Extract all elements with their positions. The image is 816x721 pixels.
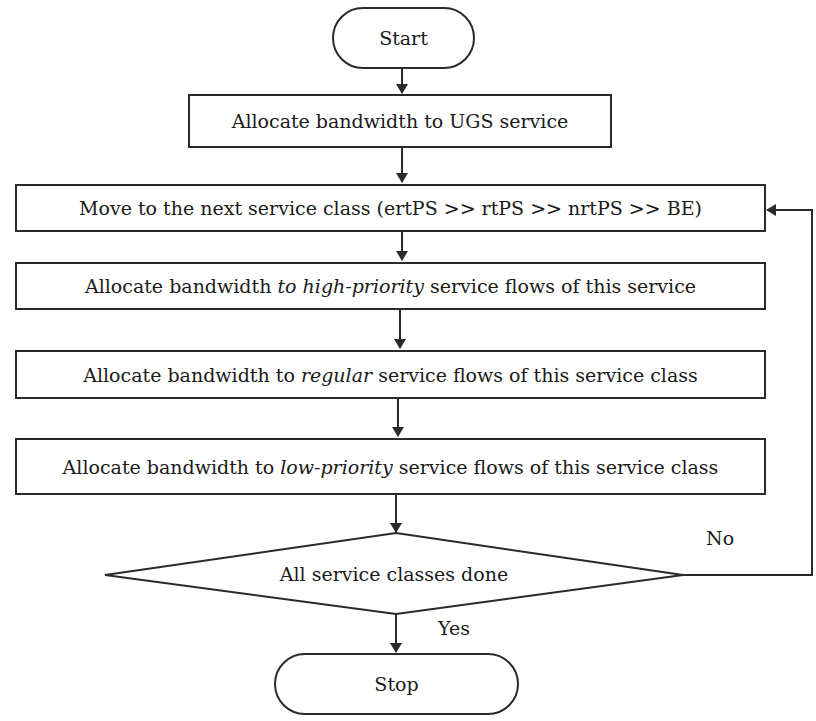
stop-label: Stop: [374, 673, 418, 695]
ugs-label: Allocate bandwidth to UGS service: [232, 110, 569, 132]
decision-label: All service classes done: [280, 563, 508, 585]
start-label: Start: [379, 27, 428, 49]
yes-label: Yes: [438, 617, 470, 639]
high-priority-label: Allocate bandwidth to high-priority serv…: [85, 275, 696, 297]
decision-all-classes-done: All service classes done: [105, 533, 683, 614]
low-priority-label: Allocate bandwidth to low-priority servi…: [63, 456, 719, 478]
stop-terminal: Stop: [274, 653, 519, 715]
no-label: No: [706, 527, 734, 549]
process-allocate-ugs: Allocate bandwidth to UGS service: [188, 94, 612, 148]
process-low-priority: Allocate bandwidth to low-priority servi…: [15, 438, 766, 495]
process-regular: Allocate bandwidth to regular service fl…: [15, 350, 766, 399]
regular-label: Allocate bandwidth to regular service fl…: [83, 364, 697, 386]
process-high-priority: Allocate bandwidth to high-priority serv…: [15, 262, 766, 310]
process-next-service-class: Move to the next service class (ertPS >>…: [15, 184, 766, 232]
start-terminal: Start: [332, 7, 475, 69]
next-class-label: Move to the next service class (ertPS >>…: [79, 197, 702, 219]
